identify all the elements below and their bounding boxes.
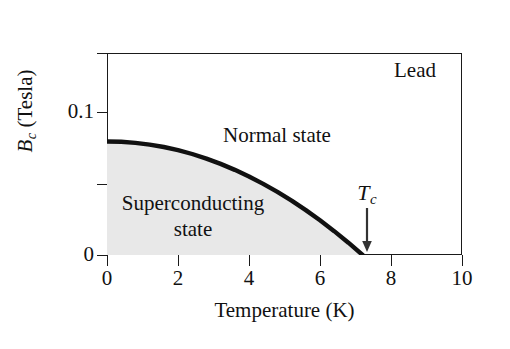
x-axis-title: Temperature (K) (107, 298, 462, 322)
chart-figure: 00.1 0246810 Temperature (K) Bc (Tesla) … (0, 0, 510, 349)
y-axis-units: (Tesla) (13, 70, 37, 133)
y-tick-1 (97, 184, 107, 185)
material-label: Lead (372, 59, 458, 82)
x-tick-2 (249, 255, 250, 266)
x-tick-label-3: 6 (290, 268, 350, 289)
x-tick-3 (320, 255, 321, 266)
x-tick-label-4: 8 (361, 268, 421, 289)
x-tick-label-1: 2 (148, 268, 208, 289)
y-tick-3 (97, 53, 107, 54)
superconducting-label-line1: Superconducting (122, 191, 264, 215)
y-tick-label-0: 0 (38, 244, 94, 265)
x-tick-5 (462, 255, 463, 266)
x-tick-1 (178, 255, 179, 266)
y-tick-label-2: 0.1 (38, 101, 94, 122)
tc-subscript: c (370, 191, 377, 207)
x-tick-label-5: 10 (432, 268, 492, 289)
superconducting-label-line2: state (174, 217, 212, 241)
y-axis-subscript: c (23, 133, 39, 140)
x-tick-0 (107, 255, 108, 266)
x-tick-label-2: 4 (219, 268, 279, 289)
y-tick-0 (97, 255, 107, 256)
x-tick-label-0: 0 (77, 268, 137, 289)
x-tick-4 (391, 255, 392, 266)
y-axis-symbol: B (13, 140, 37, 153)
y-axis-title: Bc (Tesla) (13, 26, 43, 196)
normal-state-label: Normal state (196, 124, 358, 147)
y-tick-2 (97, 112, 107, 113)
tc-symbol: T (357, 180, 369, 205)
down-arrow-icon (350, 206, 384, 254)
superconducting-state-label: Superconductingstate (110, 190, 276, 242)
